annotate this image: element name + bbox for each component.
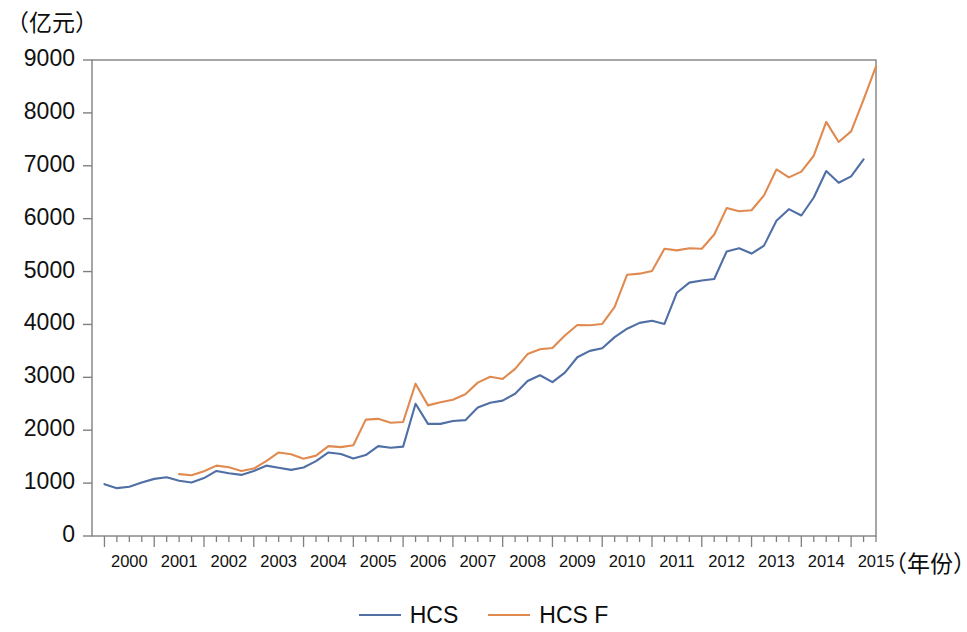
y-axis-tick-label: 0 — [5, 521, 75, 548]
y-axis-tick-label: 1000 — [5, 468, 75, 495]
y-axis-tick-label: 8000 — [5, 98, 75, 125]
series-line-hcs-f — [179, 66, 876, 475]
y-axis-tick-label: 5000 — [5, 257, 75, 284]
y-axis-ticks — [83, 60, 92, 536]
y-axis-tick-label: 7000 — [5, 151, 75, 178]
y-axis-tick-label: 6000 — [5, 204, 75, 231]
legend-item[interactable]: HCS — [359, 602, 459, 629]
legend-color-swatch — [359, 614, 401, 616]
y-axis-tick-label: 9000 — [5, 45, 75, 72]
chart-legend: HCSHCS F — [0, 598, 967, 632]
chart-figure: （亿元） （年份） 010002000300040005000600070008… — [0, 0, 967, 632]
x-axis-ticks — [104, 536, 876, 547]
y-axis-tick-label: 4000 — [5, 309, 75, 336]
x-axis-tick-label: 2015 — [846, 552, 906, 571]
y-axis-tick-label: 3000 — [5, 362, 75, 389]
y-axis-unit-label: （亿元） — [6, 4, 98, 38]
chart-plot-area — [0, 0, 967, 632]
legend-color-swatch — [488, 614, 530, 616]
legend-label: HCS F — [539, 602, 608, 629]
legend-label: HCS — [410, 602, 459, 629]
y-axis-tick-label: 2000 — [5, 415, 75, 442]
series-line-hcs — [104, 159, 863, 488]
legend-item[interactable]: HCS F — [488, 602, 608, 629]
data-series-group — [104, 66, 876, 488]
axis-lines — [92, 60, 876, 536]
